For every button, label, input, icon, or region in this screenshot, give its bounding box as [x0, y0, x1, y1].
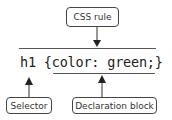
- rule-arrow-head-icon: [93, 40, 101, 47]
- css-code-line: h1 {color: green;}: [20, 54, 163, 70]
- selector-arrow-head-icon: [25, 77, 33, 85]
- css-rule-label: CSS rule: [66, 7, 119, 27]
- declaration-arrow-head-icon: [98, 75, 106, 83]
- declaration-block-label: Declaration block: [72, 97, 157, 114]
- css-rule-diagram: CSS rule h1 {color: green;} Selector Dec…: [0, 0, 172, 120]
- selector-label: Selector: [6, 97, 52, 114]
